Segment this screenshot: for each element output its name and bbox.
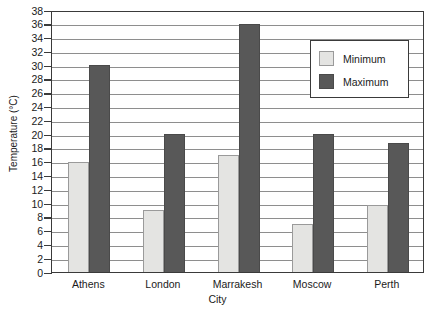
y-axis-tick-label: 0 bbox=[1, 268, 43, 279]
y-axis-title: Temperature (°C) bbox=[8, 74, 19, 194]
y-axis-tick-label: 30 bbox=[1, 61, 43, 72]
bar-london-maximum bbox=[164, 134, 185, 272]
y-axis-tick-label: 4 bbox=[1, 240, 43, 251]
y-axis-tick-label: 32 bbox=[1, 47, 43, 58]
legend-swatch-minimum-icon bbox=[319, 51, 334, 66]
bar-moscow-maximum bbox=[313, 134, 334, 272]
y-axis-tick-label: 8 bbox=[1, 212, 43, 223]
y-axis-tick-labels: 02468101214161820222426283032343638 bbox=[0, 0, 43, 314]
legend-label-maximum: Maximum bbox=[343, 76, 389, 88]
y-axis-tick-label: 36 bbox=[1, 19, 43, 30]
legend-swatch-maximum-icon bbox=[319, 74, 334, 89]
bar-athens-minimum bbox=[68, 162, 89, 272]
x-axis-label-perth: Perth bbox=[337, 278, 435, 290]
chart-legend: Minimum Maximum bbox=[310, 40, 409, 98]
bar-marrakesh-minimum bbox=[218, 155, 239, 272]
bar-athens-maximum bbox=[89, 65, 110, 272]
legend-item-minimum: Minimum bbox=[319, 48, 408, 69]
y-axis-tick-label: 10 bbox=[1, 199, 43, 210]
bar-chart: 02468101214161820222426283032343638 Temp… bbox=[0, 0, 435, 314]
y-axis-tick-label: 6 bbox=[1, 226, 43, 237]
y-axis-tick-label: 38 bbox=[1, 6, 43, 17]
bar-marrakesh-maximum bbox=[239, 24, 260, 272]
y-axis-tick-label: 2 bbox=[1, 254, 43, 265]
bar-perth-maximum bbox=[388, 143, 409, 272]
y-axis-tick-label: 34 bbox=[1, 33, 43, 44]
bar-london-minimum bbox=[143, 210, 164, 272]
legend-label-minimum: Minimum bbox=[343, 53, 386, 65]
legend-item-maximum: Maximum bbox=[319, 71, 408, 92]
x-axis-title: City bbox=[0, 293, 435, 305]
bar-moscow-minimum bbox=[292, 224, 313, 272]
bar-perth-minimum bbox=[367, 205, 388, 272]
